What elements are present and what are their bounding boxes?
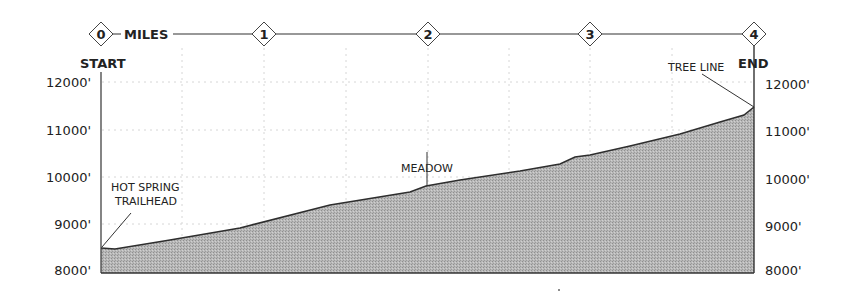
right-y-axis-labels: 12000' 11000' 10000' 9000' 8000' [765,77,810,278]
elevation-area [101,107,754,273]
svg-text:11000': 11000' [46,123,91,138]
left-y-axis-labels: 12000' 11000' 10000' 9000' 8000' [46,75,91,278]
svg-text:8000': 8000' [765,263,802,278]
svg-text:10000': 10000' [46,170,91,185]
svg-text:11000': 11000' [765,124,810,139]
svg-text:9000': 9000' [54,217,91,232]
elevation-profile-chart: MILES 0 1 2 3 4 START END 12000' 11 [0,0,853,304]
mile-marker-0: 0 [89,22,113,46]
svg-text:TRAILHEAD: TRAILHEAD [114,195,177,208]
meadow-annotation: MEADOW [401,152,453,186]
svg-text:12000': 12000' [765,77,810,92]
svg-text:2: 2 [423,27,432,42]
mile-marker-4: 4 [742,22,766,46]
svg-text:10000': 10000' [765,172,810,187]
end-label: END [738,56,769,71]
trailhead-annotation: HOT SPRING TRAILHEAD [102,181,179,247]
stray-dot [558,289,560,291]
svg-text:8000': 8000' [54,263,91,278]
svg-text:TREE LINE: TREE LINE [667,61,724,74]
svg-text:1: 1 [259,27,268,42]
start-label: START [80,56,126,71]
svg-text:4: 4 [749,27,758,42]
miles-header: MILES 0 1 2 3 4 [89,22,766,46]
svg-text:0: 0 [96,27,105,42]
miles-title: MILES [124,27,168,42]
svg-text:9000': 9000' [765,219,802,234]
mile-marker-3: 3 [578,22,602,46]
svg-text:3: 3 [585,27,594,42]
mile-marker-2: 2 [416,22,440,46]
svg-text:12000': 12000' [46,75,91,90]
svg-text:HOT SPRING: HOT SPRING [111,181,179,194]
mile-marker-1: 1 [252,22,276,46]
